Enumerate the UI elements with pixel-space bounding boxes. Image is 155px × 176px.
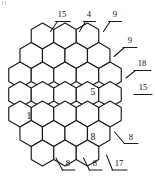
honeycomb-cell — [31, 140, 54, 166]
reference-number-ref-top-9: 9 — [113, 9, 117, 19]
reference-number-ref-right-9: 9 — [128, 35, 132, 45]
reference-number-ref-bottom-8-mid: 8 — [93, 158, 97, 168]
honeycomb-diagram-canvas: 15499181588817 158 — [0, 0, 155, 176]
reference-number-ref-bottom-8-left: 8 — [66, 158, 70, 168]
reference-number-ref-right-15: 15 — [139, 82, 148, 92]
reference-number-ref-right-8: 8 — [129, 132, 133, 142]
reference-number-ref-right-18: 18 — [138, 58, 147, 68]
leader-line-right-9 — [114, 48, 125, 57]
reference-number-ref-bottom-17: 17 — [115, 158, 124, 168]
leader-line-bottom-17 — [107, 155, 113, 170]
leader-line-right-18 — [126, 71, 136, 79]
honeycomb-cell-grid — [9, 23, 122, 166]
leader-line-right-8 — [115, 132, 125, 144]
leader-line-top-9 — [104, 22, 111, 32]
cell-number-cell-1: 1 — [27, 110, 32, 121]
reference-number-ref-top-15: 15 — [58, 9, 67, 19]
cell-number-cell-8: 8 — [91, 131, 96, 142]
cell-number-cell-5: 5 — [91, 86, 96, 97]
reference-number-ref-top-4: 4 — [87, 9, 92, 19]
honeycomb-figure: 15499181588817 158 — [0, 0, 155, 176]
